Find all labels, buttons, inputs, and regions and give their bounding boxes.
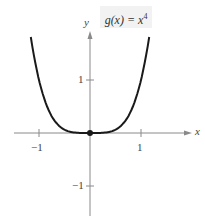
function-label-exponent: 4 — [143, 12, 147, 21]
y-axis-arrow-icon — [88, 31, 93, 39]
y-tick-label-pos1: 1 — [78, 73, 84, 85]
y-tick-label-neg1: −1 — [72, 179, 84, 191]
x-axis-arrow-icon — [184, 131, 192, 136]
function-label: g(x) = x4 — [100, 6, 152, 28]
x-tick-label-pos1: 1 — [137, 141, 143, 153]
x-axis-label: x — [195, 125, 200, 137]
function-label-text: g(x) = x — [105, 13, 144, 27]
chart-plot — [0, 0, 205, 222]
origin-point — [87, 130, 93, 136]
x-tick-label-neg1: −1 — [31, 141, 43, 153]
y-axis-label: y — [84, 16, 89, 28]
